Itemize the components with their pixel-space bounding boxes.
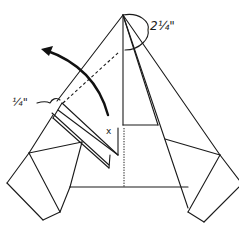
diagram-drawing	[0, 0, 239, 232]
right-flap	[165, 139, 239, 222]
origami-diagram: 2¼" ¼" x	[0, 0, 239, 232]
side-measure-label: ¼"	[12, 96, 28, 109]
top-measure-label: 2¼"	[150, 19, 175, 33]
fold-arrow-icon	[41, 46, 108, 115]
valley-fold-line	[63, 52, 119, 103]
x-marker: x	[106, 126, 111, 136]
paper-outline	[57, 15, 220, 208]
